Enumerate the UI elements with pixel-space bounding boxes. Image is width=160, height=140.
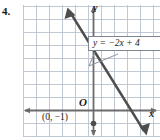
problem-number: 4.	[2, 5, 10, 17]
plotted-point-0-minus-1	[91, 121, 97, 127]
equation-callout-box: y = −2x + 4	[88, 36, 160, 51]
origin-label: O	[79, 96, 87, 108]
x-axis-label: x	[149, 108, 154, 119]
y-axis-label: y	[93, 2, 97, 13]
point-coordinate-label: (0, −1)	[42, 112, 68, 122]
equation-callout-label: y = −2x + 4	[93, 39, 140, 49]
math-figure: 4.	[0, 0, 160, 140]
